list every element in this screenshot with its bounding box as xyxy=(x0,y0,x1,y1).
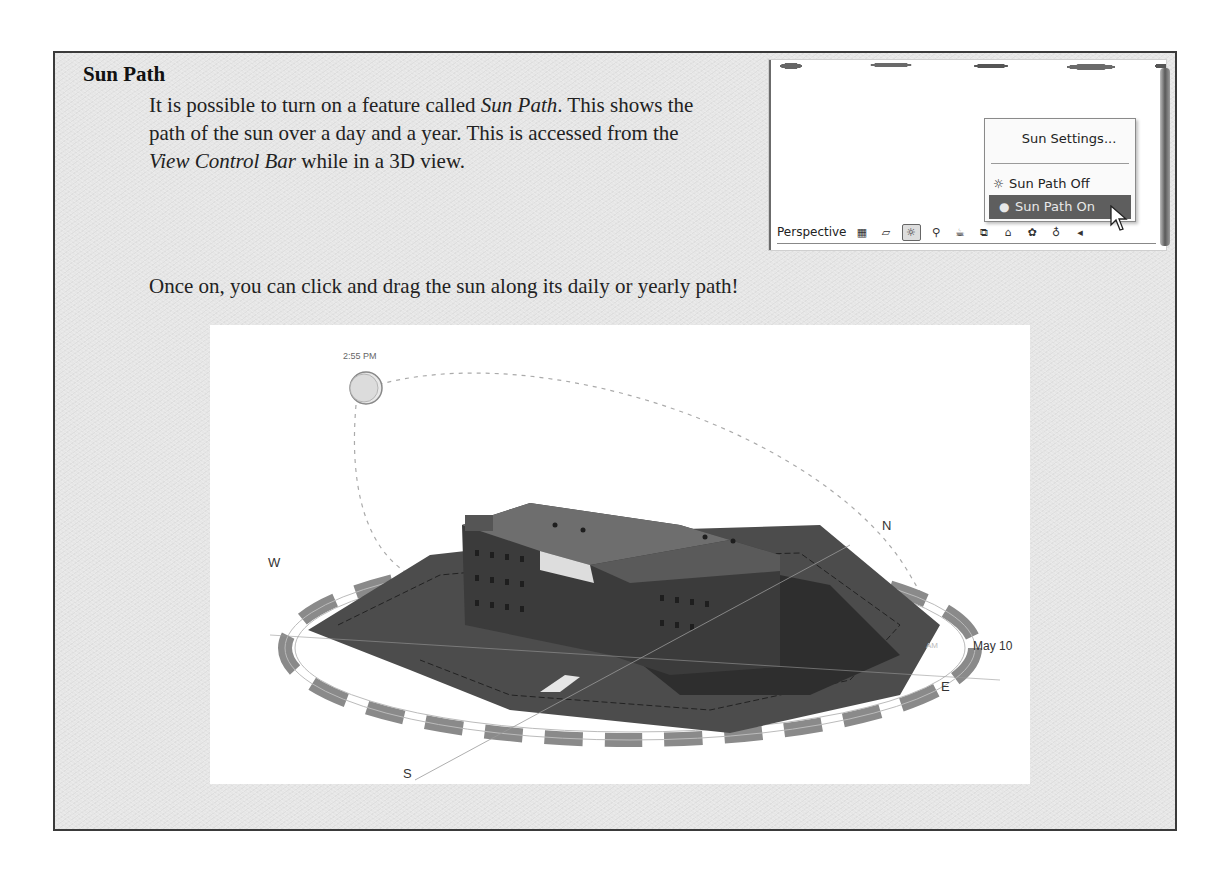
compass-east-label: E xyxy=(941,679,950,694)
sun-path-panel: Sun Path It is possible to turn on a fea… xyxy=(53,51,1177,831)
torn-edge-decoration xyxy=(1160,68,1170,246)
crop-view-icon[interactable]: ⧉ xyxy=(976,225,993,240)
temporary-hide-icon[interactable]: ✿ xyxy=(1024,225,1041,240)
am-label: AM xyxy=(926,641,938,650)
sun-path-rendering xyxy=(210,325,1030,784)
bullet-icon: ● xyxy=(999,195,1015,219)
scroll-left-icon[interactable]: ◂ xyxy=(1072,225,1089,240)
torn-edge-decoration xyxy=(771,60,1166,74)
sun-path-icon[interactable]: ☼ xyxy=(902,224,921,241)
intro-paragraph: It is possible to turn on a feature call… xyxy=(149,91,709,175)
view-type-label: Perspective xyxy=(777,225,847,239)
drag-instruction-paragraph: Once on, you can click and drag the sun … xyxy=(149,274,739,299)
lock-3d-view-icon[interactable]: ⌂ xyxy=(1000,225,1017,240)
view-control-bar-screenshot: Sun Settings... ☼Sun Path Off ●Sun Path … xyxy=(769,60,1166,250)
sun-path-3d-view: 2:55 PM N W S E May 10 AM xyxy=(210,325,1030,784)
compass-north-label: N xyxy=(882,518,891,533)
visual-style-icon[interactable]: ▦ xyxy=(854,225,871,240)
3d-box-icon[interactable]: ▱ xyxy=(878,225,895,240)
compass-south-label: S xyxy=(403,766,412,781)
menu-item-sun-settings[interactable]: Sun Settings... xyxy=(989,127,1131,151)
sun-off-icon: ☼ xyxy=(993,172,1009,196)
shadows-off-icon[interactable]: ⚲ xyxy=(928,225,945,240)
time-label: 2:55 PM xyxy=(343,351,377,361)
show-rendering-icon[interactable]: ☕ xyxy=(952,225,969,240)
compass-west-label: W xyxy=(268,555,280,570)
menu-separator xyxy=(991,163,1129,164)
menu-item-sun-path-off[interactable]: ☼Sun Path Off xyxy=(989,172,1131,196)
date-label: May 10 xyxy=(973,639,1012,653)
section-heading: Sun Path xyxy=(83,62,165,87)
view-control-bar: Perspective ▦ ▱ ☼ ⚲ ☕ ⧉ ⌂ ✿ ♁ ◂ xyxy=(777,221,1156,244)
lightbulb-icon[interactable]: ♁ xyxy=(1048,225,1065,240)
